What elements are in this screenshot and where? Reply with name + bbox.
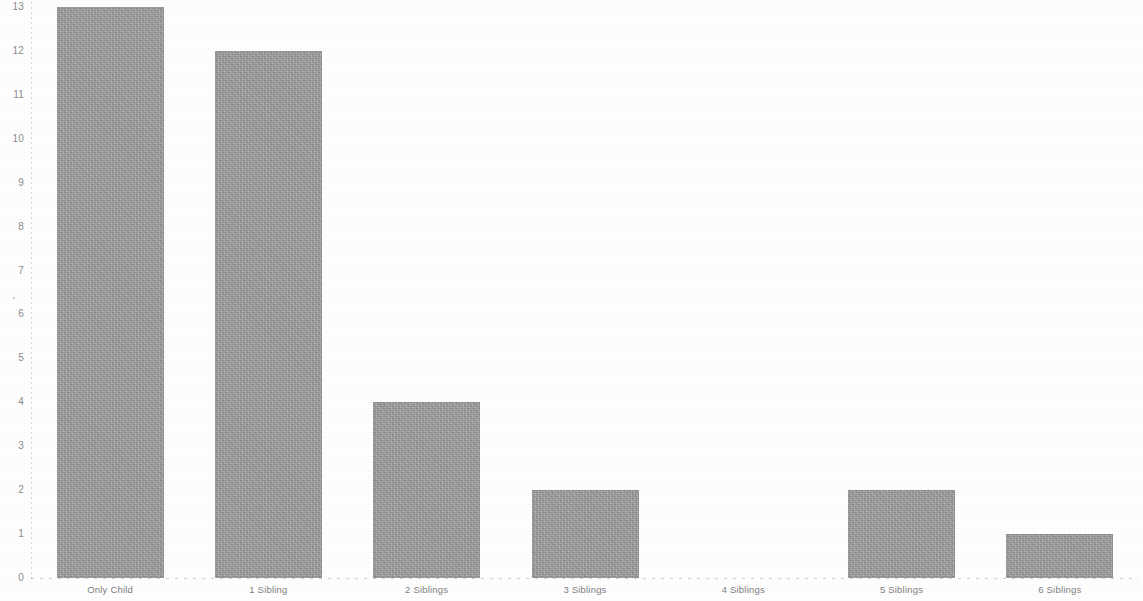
bar-slot: [373, 0, 480, 578]
x-axis-baseline: [31, 578, 1139, 579]
y-axis-tick-label: 1: [2, 529, 24, 539]
y-axis-tick-label: 2: [2, 485, 24, 495]
plot-area: [31, 0, 1143, 578]
bar: [848, 490, 955, 578]
y-axis-tick-label: 3: [2, 441, 24, 451]
x-axis-tick-label: 1 Sibling: [189, 583, 347, 597]
x-axis-tick-labels: Only Child1 Sibling2 Siblings3 Siblings4…: [31, 583, 1143, 601]
bar: [1006, 534, 1113, 578]
bar: [373, 402, 480, 578]
bar-slot: [690, 0, 797, 578]
x-axis-tick-label: Only Child: [31, 583, 189, 597]
y-axis-tick-label: 6: [2, 309, 24, 319]
x-axis-tick-label: 4 Siblings: [664, 583, 822, 597]
y-axis-tick-label: 8: [2, 222, 24, 232]
y-axis-tick-label: 0: [2, 573, 24, 583]
y-axis-tick-label: 5: [2, 353, 24, 363]
scan-artifact-speck: [13, 297, 15, 299]
bar-slot: [848, 0, 955, 578]
bar-slot: [215, 0, 322, 578]
y-axis-tick-label: 11: [2, 90, 24, 100]
x-axis-tick-label: 6 Siblings: [981, 583, 1139, 597]
bar: [57, 7, 164, 578]
bar-chart: 012345678910111213 Only Child1 Sibling2 …: [0, 0, 1143, 601]
y-axis-tick-label: 9: [2, 178, 24, 188]
y-axis-tick-label: 10: [2, 134, 24, 144]
x-axis-tick-label: 5 Siblings: [822, 583, 980, 597]
x-axis-tick-label: 3 Siblings: [506, 583, 664, 597]
bar: [215, 51, 322, 578]
bar: [532, 490, 639, 578]
y-axis-tick-label: 4: [2, 397, 24, 407]
y-axis-tick-label: 12: [2, 46, 24, 56]
bar-slot: [532, 0, 639, 578]
y-axis-tick-label: 13: [2, 2, 24, 12]
x-axis-tick-label: 2 Siblings: [348, 583, 506, 597]
y-axis-tick-label: 7: [2, 266, 24, 276]
y-axis-line: [31, 2, 32, 579]
bar-slot: [1006, 0, 1113, 578]
bar-slot: [57, 0, 164, 578]
